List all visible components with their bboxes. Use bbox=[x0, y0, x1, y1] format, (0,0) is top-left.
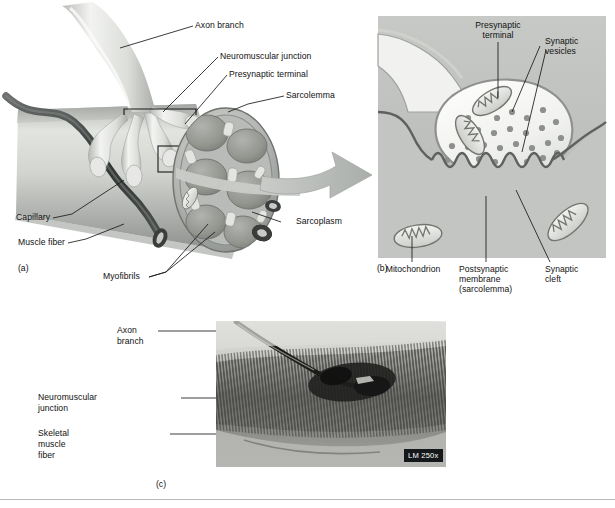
label-axon-branch-c: Axon bbox=[117, 325, 137, 335]
leader-capillary bbox=[53, 180, 124, 218]
label-synaptic-cleft: Synaptic bbox=[545, 264, 578, 274]
label-synaptic-cleft-line2: cleft bbox=[545, 274, 561, 284]
leader-neuromuscular-junction bbox=[163, 57, 218, 112]
label-axon-branch: Axon branch bbox=[195, 20, 244, 30]
leader-synaptic-cleft bbox=[516, 190, 550, 262]
panel-id-c: (c) bbox=[156, 479, 166, 489]
figure-neuromuscular-junction: Axon branch Neuromuscular junction Presy… bbox=[0, 0, 615, 508]
label-synaptic-vesicles-line2: vesicles bbox=[545, 46, 576, 56]
label-presynaptic-terminal-b: Presynaptic bbox=[455, 20, 541, 30]
leader-muscle-fiber bbox=[68, 224, 124, 243]
leader-sarcoplasm bbox=[252, 212, 281, 222]
leader-myofibrils-2 bbox=[149, 232, 215, 277]
label-sarcoplasm: Sarcoplasm bbox=[296, 216, 342, 226]
label-skeletal-muscle-fiber-c-line3: fiber bbox=[38, 450, 55, 460]
label-synaptic-vesicles: Synaptic bbox=[545, 36, 578, 46]
label-myofibrils: Myofibrils bbox=[103, 271, 140, 281]
label-skeletal-muscle-fiber-c: Skeletal bbox=[38, 428, 69, 438]
label-skeletal-muscle-fiber-c-line2: muscle bbox=[38, 439, 66, 449]
leader-sarcolemma bbox=[228, 96, 284, 112]
magnification-badge: LM 250x bbox=[404, 449, 443, 462]
label-neuromuscular-junction-c: Neuromuscular bbox=[38, 392, 97, 402]
leader-synaptic-vesicles-2 bbox=[522, 50, 546, 152]
label-sarcolemma: Sarcolemma bbox=[286, 90, 335, 100]
label-presynaptic-terminal-b-line2: terminal bbox=[455, 30, 541, 40]
leader-myofibrils-1 bbox=[149, 224, 208, 277]
label-presynaptic-terminal: Presynaptic terminal bbox=[229, 69, 308, 79]
label-capillary: Capillary bbox=[0, 212, 50, 222]
panel-id-b: (b) bbox=[377, 263, 388, 273]
leader-axon-branch bbox=[120, 26, 193, 48]
footer-divider bbox=[0, 499, 615, 500]
label-axon-branch-c-line2: branch bbox=[117, 336, 144, 346]
panel-id-a: (a) bbox=[18, 263, 29, 273]
leader-synaptic-vesicles-1 bbox=[512, 46, 540, 112]
label-neuromuscular-junction-c-line2: junction bbox=[38, 403, 68, 413]
label-muscle-fiber: Muscle fiber bbox=[0, 237, 65, 247]
label-postsynaptic-membrane-line2: membrane bbox=[459, 274, 500, 284]
label-postsynaptic-membrane-line3: (sarcolemma) bbox=[459, 284, 512, 294]
label-neuromuscular-junction: Neuromuscular junction bbox=[220, 51, 311, 61]
label-postsynaptic-membrane: Postsynaptic bbox=[459, 264, 508, 274]
leader-presynaptic-terminal bbox=[185, 75, 227, 124]
